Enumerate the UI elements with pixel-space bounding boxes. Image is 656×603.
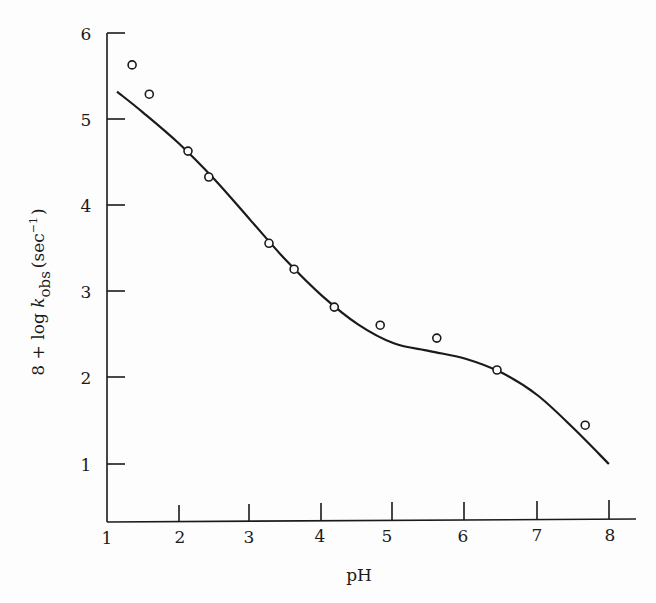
data-point (330, 303, 338, 311)
x-tick-label: 6 (458, 526, 469, 546)
x-tick-label: 1 (102, 528, 113, 548)
y-tick-labels: 6 5 4 3 2 1 (81, 24, 92, 475)
y-axis-title-subscript: obs (36, 271, 54, 297)
data-point (493, 366, 501, 374)
y-tick-label: 1 (81, 455, 92, 475)
data-point (128, 61, 136, 69)
y-axis-title: 8 + log kobs(sec−1) (27, 208, 54, 375)
y-axis-title-unit: (sec (28, 233, 48, 268)
data-point (290, 265, 298, 273)
y-tick-label: 6 (81, 24, 92, 44)
y-axis-title-k: k (28, 298, 48, 308)
x-axis-title: pH (346, 565, 372, 585)
svg-text:8 + log kobs(sec−1): 8 + log kobs(sec−1) (27, 208, 54, 375)
x-tick-label: 8 (605, 525, 616, 545)
y-axis-title-close: ) (28, 208, 48, 215)
data-point (433, 334, 441, 342)
data-point (145, 90, 153, 98)
x-axis (107, 500, 636, 522)
chart: 6 5 4 3 2 1 1 2 3 4 5 6 7 8 pH 8 + log k… (0, 0, 656, 603)
data-point (265, 239, 273, 247)
y-tick-label: 2 (81, 368, 92, 388)
data-point (376, 321, 384, 329)
x-tick-label: 4 (315, 526, 326, 546)
y-tick-label: 5 (81, 110, 92, 130)
x-tick-label: 2 (175, 527, 186, 547)
x-tick-label: 5 (382, 526, 393, 546)
x-tick-label: 3 (244, 527, 255, 547)
data-points (128, 61, 589, 429)
y-tick-label: 4 (81, 196, 92, 216)
data-point (205, 173, 213, 181)
data-point (581, 421, 589, 429)
data-point (184, 147, 192, 155)
x-tick-labels: 1 2 3 4 5 6 7 8 (102, 525, 616, 548)
y-axis-title-superscript: −1 (27, 217, 40, 233)
y-axis (107, 33, 125, 522)
y-axis-title-prefix: 8 + log (28, 308, 48, 376)
y-tick-label: 3 (81, 282, 92, 302)
x-tick-label: 7 (532, 525, 543, 545)
